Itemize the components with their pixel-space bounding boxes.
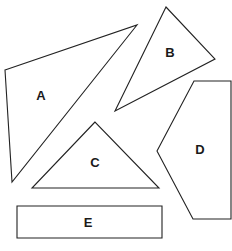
shape-d: D — [157, 81, 231, 219]
shape-d-label: D — [195, 142, 204, 157]
shape-d-outline — [157, 81, 231, 219]
shape-e: E — [17, 206, 162, 238]
shape-e-label: E — [84, 215, 93, 230]
shape-b-label: B — [165, 45, 174, 60]
shape-c-label: C — [90, 155, 100, 170]
shapes-diagram: g A B C D E — [0, 0, 232, 251]
shape-a-label: A — [36, 88, 46, 103]
